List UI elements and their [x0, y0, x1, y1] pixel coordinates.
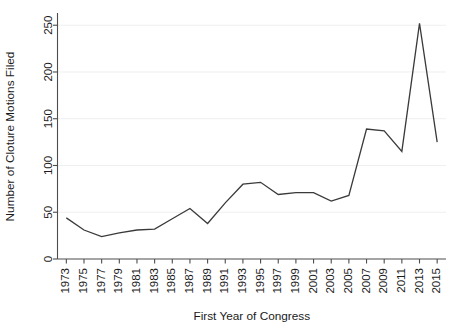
y-tick-label-250: 250	[42, 16, 54, 35]
x-tick-label-1973: 1973	[59, 268, 71, 294]
x-tick-label-1977: 1977	[95, 268, 107, 294]
x-tick-label-2015: 2015	[430, 268, 442, 294]
x-tick-label-1995: 1995	[254, 268, 266, 294]
chart-canvas: 0501001502002501973197519771979198119831…	[0, 0, 452, 332]
x-tick-label-1985: 1985	[165, 268, 177, 294]
x-tick-label-1991: 1991	[218, 268, 230, 294]
x-tick-label-2009: 2009	[377, 268, 389, 294]
x-tick-label-1993: 1993	[236, 268, 248, 294]
x-tick-label-2013: 2013	[413, 268, 425, 294]
x-tick-label-2007: 2007	[360, 268, 372, 294]
y-tick-label-100: 100	[42, 156, 54, 175]
data-series-line	[66, 23, 437, 236]
y-tick-label-50: 50	[42, 206, 54, 219]
x-tick-label-1975: 1975	[77, 268, 89, 294]
x-tick-label-2003: 2003	[324, 268, 336, 294]
x-tick-label-1983: 1983	[148, 268, 160, 294]
x-tick-label-1997: 1997	[271, 268, 283, 294]
y-tick-label-150: 150	[42, 109, 54, 128]
x-axis: 1973197519771979198119831985198719891991…	[58, 259, 447, 294]
y-axis: 050100150200250	[42, 13, 58, 262]
y-tick-label-0: 0	[42, 256, 54, 262]
x-axis-title: First Year of Congress	[193, 309, 310, 323]
y-axis-title: Number of Cloture Motions Filed	[3, 52, 17, 222]
x-tick-label-1979: 1979	[112, 268, 124, 294]
cloture-motions-line-chart: 0501001502002501973197519771979198119831…	[0, 0, 452, 332]
x-tick-label-2011: 2011	[395, 268, 407, 293]
x-tick-label-1989: 1989	[201, 268, 213, 294]
x-tick-label-2001: 2001	[307, 268, 319, 294]
y-tick-label-200: 200	[42, 62, 54, 81]
x-tick-label-1981: 1981	[130, 268, 142, 294]
x-tick-label-2005: 2005	[342, 268, 354, 294]
x-tick-label-1999: 1999	[289, 268, 301, 294]
x-tick-label-1987: 1987	[183, 268, 195, 294]
gridlines	[58, 25, 447, 212]
